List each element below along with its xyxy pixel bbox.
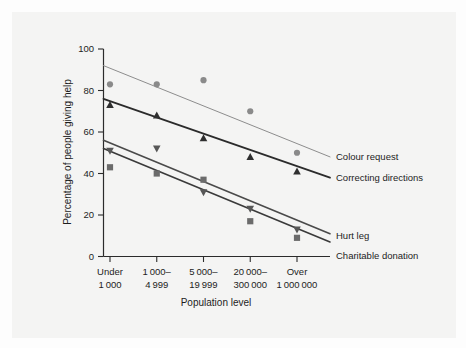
series-label-3: Charitable donation — [336, 250, 418, 261]
x-tick-label-4-line-0: Over — [287, 266, 308, 277]
x-tick-label-4-line-1: 1 000 000 — [277, 279, 318, 290]
y-tick-label-100: 100 — [78, 43, 94, 54]
series-label-0: Colour request — [336, 151, 399, 162]
data-point-square-0 — [107, 164, 113, 170]
y-axis-title: Percentage of people giving help — [62, 79, 73, 225]
x-tick-label-2-line-0: 5 000– — [189, 266, 218, 277]
data-point-square-3 — [247, 218, 253, 224]
chart-svg: Percentage of people giving help 0204060… — [0, 0, 466, 348]
data-point-triangle-up-1 — [153, 111, 161, 118]
trend-line-1 — [104, 99, 331, 178]
x-axis-tick-labels: Under1 0001 000–4 9995 000–19 99920 000–… — [97, 266, 317, 290]
data-point-circle-2 — [200, 77, 206, 83]
series-label-2: Hurt leg — [336, 230, 369, 241]
y-tick-label-20: 20 — [83, 209, 94, 220]
data-point-circle-4 — [294, 150, 300, 156]
data-point-circle-0 — [107, 81, 113, 87]
data-point-triangle-up-4 — [293, 167, 301, 174]
data-point-square-2 — [200, 177, 206, 183]
figure-container: Percentage of people giving help 0204060… — [0, 0, 466, 348]
data-point-square-1 — [154, 170, 160, 176]
x-axis-ticks — [110, 257, 297, 263]
data-point-triangle-down-1 — [153, 146, 161, 153]
x-tick-label-1-line-1: 4 999 — [145, 279, 168, 290]
data-point-circle-3 — [247, 108, 253, 114]
y-tick-label-40: 40 — [83, 168, 94, 179]
x-axis-title: Population level — [181, 297, 252, 308]
x-tick-label-2-line-1: 19 999 — [189, 279, 217, 290]
series-label-1: Correcting directions — [336, 172, 423, 183]
data-point-square-4 — [294, 235, 300, 241]
x-tick-label-3-line-0: 20 000– — [233, 266, 267, 277]
scatter-plot: Percentage of people giving help 0204060… — [0, 0, 466, 348]
data-point-triangle-down-0 — [106, 148, 114, 155]
y-tick-label-0: 0 — [89, 251, 94, 262]
data-markers-group — [106, 77, 301, 241]
y-axis-ticks: 020406080100 — [78, 43, 103, 262]
series-inline-labels: Colour requestCorrecting directionsHurt … — [336, 151, 423, 261]
data-point-triangle-down-2 — [200, 189, 208, 196]
y-tick-label-60: 60 — [83, 126, 94, 137]
data-point-circle-1 — [154, 81, 160, 87]
x-tick-label-0-line-1: 1 000 — [98, 279, 121, 290]
data-point-triangle-down-3 — [246, 206, 254, 213]
x-tick-label-0-line-0: Under — [97, 266, 123, 277]
x-tick-label-1-line-0: 1 000– — [143, 266, 172, 277]
x-tick-label-3-line-1: 300 000 — [233, 279, 267, 290]
y-tick-label-80: 80 — [83, 85, 94, 96]
data-point-triangle-up-3 — [246, 153, 254, 160]
